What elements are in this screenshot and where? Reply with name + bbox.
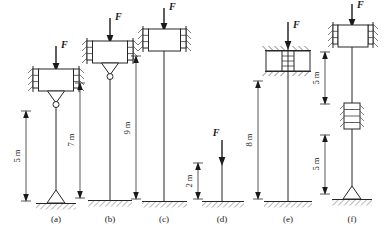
fixed-support-e — [264, 202, 312, 208]
force-arrow-c — [161, 8, 168, 32]
dimension-label-d: 2 m — [184, 174, 194, 187]
case-label-f: (f) — [348, 214, 357, 224]
dimension-f-lower — [320, 134, 330, 195]
lateral-brace-f — [340, 103, 364, 129]
pin-support-f — [332, 186, 372, 206]
dimension-label-c: 9 m — [122, 121, 132, 134]
pin-support-a — [36, 190, 76, 210]
wall-hatch-left-a — [28, 66, 33, 92]
slider-block-c — [149, 29, 181, 51]
case-label-c: (c) — [159, 214, 169, 224]
wall-hatch-left-c — [138, 26, 143, 52]
force-arrow-a — [53, 46, 60, 72]
wall-hatch-left-f — [328, 22, 333, 48]
case-d: F 2 m (d) — [184, 127, 244, 224]
fixed-support-b — [88, 201, 132, 207]
dimension-label-f-upper: 5 m — [311, 71, 321, 84]
wall-hatch-bottom-e — [263, 72, 312, 77]
dimension-d — [193, 162, 203, 200]
case-label-a: (a) — [51, 214, 61, 224]
force-label-f: F — [356, 0, 364, 10]
dimension-label-b: 7 m — [66, 133, 76, 146]
wall-hatch-right-c — [186, 26, 191, 52]
dimension-f-upper — [320, 51, 330, 105]
dimension-e — [253, 80, 263, 200]
force-label-b: F — [114, 11, 122, 22]
pin-joint-b — [102, 63, 119, 80]
case-c: F — [122, 1, 191, 224]
force-arrow-f — [349, 4, 356, 28]
wall-hatch-right-f — [373, 22, 378, 48]
force-label-d: F — [212, 127, 220, 138]
case-label-b: (b) — [105, 214, 116, 224]
dimension-b — [75, 82, 85, 199]
fixed-support-d — [202, 202, 244, 208]
dimension-a — [21, 110, 31, 202]
dimension-label-f-lower: 5 m — [311, 157, 321, 170]
slider-block-f — [338, 25, 368, 47]
dimension-label-a: 5 m — [12, 149, 22, 162]
case-label-d: (d) — [217, 214, 228, 224]
dimension-c — [131, 55, 141, 200]
figure-canvas: F — [0, 0, 385, 233]
case-label-e: (e) — [283, 214, 293, 224]
slider-block-a — [39, 69, 74, 91]
case-b: F — [66, 11, 138, 224]
force-label-a: F — [60, 39, 68, 50]
pin-joint-a — [48, 91, 65, 108]
case-e: F — [244, 19, 312, 224]
force-label-e: F — [292, 19, 300, 30]
slider-block-b — [93, 41, 128, 63]
case-f: F — [311, 0, 378, 224]
force-label-c: F — [168, 1, 176, 12]
case-a: F — [12, 39, 84, 224]
column-buckling-figure: F — [0, 0, 385, 233]
wall-hatch-left-b — [82, 38, 87, 64]
fixed-support-c — [142, 202, 187, 208]
force-arrow-b — [107, 18, 114, 44]
dimension-label-e: 8 m — [244, 133, 254, 146]
